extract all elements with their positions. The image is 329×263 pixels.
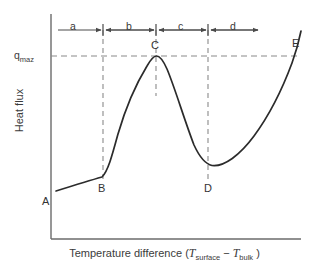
segment-label-d: d bbox=[230, 21, 236, 32]
boiling-curve-line bbox=[56, 31, 301, 191]
point-label-b: B bbox=[98, 183, 105, 194]
segment-label-c: c bbox=[178, 21, 183, 32]
plot-area bbox=[0, 0, 329, 263]
y-axis-tick-label-qmax: qmaz bbox=[14, 50, 34, 64]
point-label-d: D bbox=[204, 183, 212, 194]
segment-label-b: b bbox=[126, 21, 132, 32]
x-axis-title: Temperature difference (Tsurface − Tbulk… bbox=[0, 247, 329, 262]
segment-label-a: a bbox=[70, 21, 76, 32]
boiling-curve-figure: qmaz Heat flux Temperature difference (T… bbox=[0, 0, 329, 263]
point-label-e: E bbox=[292, 38, 299, 49]
point-label-c: C bbox=[151, 40, 159, 51]
y-axis-title: Heat flux bbox=[14, 76, 25, 146]
point-label-a: A bbox=[42, 196, 49, 207]
